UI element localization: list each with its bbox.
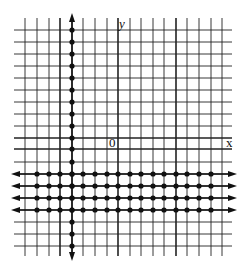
graph-point — [80, 207, 85, 212]
graph-point — [34, 171, 39, 176]
graph-point — [69, 111, 74, 116]
graph-point — [69, 39, 74, 44]
graph-point — [115, 195, 120, 200]
graph-point — [69, 135, 74, 140]
graph-point — [127, 183, 132, 188]
graph-point — [69, 146, 74, 151]
graph-point — [104, 195, 109, 200]
graph-point — [138, 207, 143, 212]
graph-point — [104, 207, 109, 212]
graph-point — [173, 183, 178, 188]
graph-point — [150, 183, 155, 188]
graph-point — [150, 207, 155, 212]
graph-point — [69, 195, 74, 200]
graph-point — [184, 207, 189, 212]
x-axis-label: x — [226, 136, 233, 149]
graph-point — [104, 171, 109, 176]
graph-point — [69, 63, 74, 68]
graph-point — [92, 207, 97, 212]
arrow-left-icon — [11, 195, 20, 201]
graph-point — [196, 207, 201, 212]
graph-point — [80, 183, 85, 188]
graph-point — [138, 183, 143, 188]
graph-point — [92, 195, 97, 200]
graph-point — [184, 171, 189, 176]
graph-point — [69, 207, 74, 212]
graph-point — [173, 171, 178, 176]
origin-label: 0 — [109, 136, 116, 149]
graph-point — [104, 183, 109, 188]
graph-point — [69, 243, 74, 248]
arrow-down-icon — [69, 252, 75, 261]
graph-point — [46, 171, 51, 176]
graph-point — [46, 195, 51, 200]
graph-point — [57, 171, 62, 176]
graph-point — [127, 171, 132, 176]
graph-point — [92, 183, 97, 188]
graph-point — [69, 87, 74, 92]
graph-point — [34, 183, 39, 188]
graph-point — [115, 183, 120, 188]
arrow-left-icon — [11, 171, 20, 177]
graph-point — [34, 207, 39, 212]
graph-point — [208, 195, 213, 200]
graph-point — [150, 195, 155, 200]
graph-point — [46, 183, 51, 188]
graph-point — [80, 171, 85, 176]
arrow-right-icon — [228, 171, 237, 177]
graph-point — [161, 171, 166, 176]
graph-point — [173, 195, 178, 200]
graph-point — [161, 207, 166, 212]
graph-point — [69, 219, 74, 224]
arrow-left-icon — [11, 207, 20, 213]
graph-point — [69, 231, 74, 236]
arrow-right-icon — [228, 183, 237, 189]
graph-point — [69, 171, 74, 176]
graph-point — [69, 123, 74, 128]
graph-point — [161, 195, 166, 200]
graph-point — [46, 207, 51, 212]
graph-point — [196, 183, 201, 188]
y-axis-label: y — [119, 17, 125, 30]
graph-point — [69, 75, 74, 80]
graph-point — [138, 171, 143, 176]
coordinate-graph — [0, 0, 247, 267]
graph-point — [115, 207, 120, 212]
graph-point — [150, 171, 155, 176]
graph-point — [69, 159, 74, 164]
graph-point — [161, 183, 166, 188]
graph-point — [69, 183, 74, 188]
graph-point — [69, 27, 74, 32]
graph-point — [208, 207, 213, 212]
arrow-right-icon — [228, 195, 237, 201]
graph-point — [57, 207, 62, 212]
graph-point — [69, 99, 74, 104]
graph-point — [57, 183, 62, 188]
graph-point — [34, 195, 39, 200]
graph-point — [138, 195, 143, 200]
graph-point — [173, 207, 178, 212]
graph-point — [115, 171, 120, 176]
graph-point — [184, 195, 189, 200]
graph-point — [184, 183, 189, 188]
graph-point — [127, 207, 132, 212]
graph-point — [208, 183, 213, 188]
graph-point — [80, 195, 85, 200]
graph-point — [69, 51, 74, 56]
arrow-up-icon — [69, 13, 75, 22]
graph-point — [196, 171, 201, 176]
graph-point — [92, 171, 97, 176]
graph-point — [57, 195, 62, 200]
arrow-right-icon — [228, 207, 237, 213]
arrow-left-icon — [11, 183, 20, 189]
graph-point — [127, 195, 132, 200]
graph-point — [196, 195, 201, 200]
graph-point — [208, 171, 213, 176]
